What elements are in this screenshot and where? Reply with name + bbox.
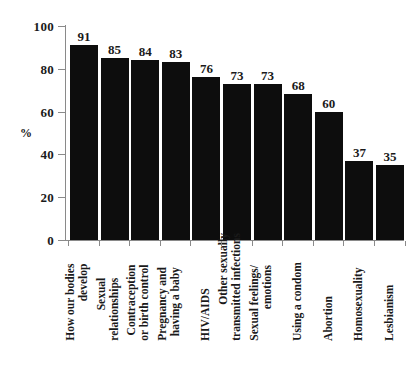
bar (315, 112, 343, 240)
x-tick-mark (68, 241, 69, 246)
bar (223, 84, 251, 240)
bar (254, 84, 282, 240)
bar-value-label: 85 (98, 43, 132, 56)
y-tick-mark (58, 69, 66, 70)
bar-value-label: 37 (342, 146, 376, 159)
y-tick-label: 20 (14, 191, 54, 204)
x-axis-label: How our bodiesdevelop (64, 264, 90, 341)
x-axis-labels: How our bodiesdevelopSexualrelationships… (0, 246, 409, 381)
bar-value-label: 84 (128, 45, 162, 58)
y-tick-mark (58, 112, 66, 113)
bar-value-label: 83 (159, 47, 193, 60)
x-tick-mark (99, 241, 100, 246)
y-tick-label: 40 (14, 148, 54, 161)
bar (376, 165, 404, 240)
x-axis-label: Using a condom (291, 262, 304, 341)
x-tick-mark (129, 241, 130, 246)
bar (131, 60, 159, 240)
bar-value-label: 73 (220, 69, 254, 82)
bar-value-label: 68 (281, 79, 315, 92)
x-axis-label: Contraceptionor birth control (125, 265, 151, 341)
plot-area (66, 26, 404, 240)
y-tick-label: 80 (14, 63, 54, 76)
x-axis-label: Homosexuality (353, 268, 366, 341)
x-axis-label: Sexual feelings/emotions (248, 265, 274, 341)
bar-chart: % 020406080100 How our bodiesdevelopSexu… (0, 0, 409, 381)
bar-value-label: 35 (373, 150, 407, 163)
x-axis-label: Sexualrelationships (95, 278, 121, 341)
y-tick-label: 60 (14, 106, 54, 119)
bar-value-label: 73 (251, 69, 285, 82)
x-axis-label: Lesbianism (383, 285, 396, 341)
bar (162, 62, 190, 240)
x-tick-mark (343, 241, 344, 246)
bar (192, 77, 220, 240)
bar-value-label: 60 (312, 97, 346, 110)
y-tick-mark (58, 197, 66, 198)
x-tick-mark (282, 241, 283, 246)
x-axis-label: HIV/AIDS (200, 289, 213, 341)
x-axis-label: Pregnancy andhaving a baby (156, 267, 182, 341)
y-tick-mark (58, 240, 66, 241)
y-tick-mark (58, 26, 66, 27)
y-tick-label: 100 (14, 20, 54, 33)
bar-value-label: 91 (67, 30, 101, 43)
x-tick-mark (374, 241, 375, 246)
x-axis-label: Abortion (322, 296, 335, 341)
x-tick-mark (160, 241, 161, 246)
bar (284, 94, 312, 240)
x-tick-mark (313, 241, 314, 246)
y-axis-title: % (20, 126, 32, 141)
bar (101, 58, 129, 240)
bar (345, 161, 373, 240)
y-tick-mark (58, 154, 66, 155)
x-axis-label: Other sexuallytransmitted infections (217, 233, 243, 341)
x-tick-mark (252, 241, 253, 246)
x-tick-mark (190, 241, 191, 246)
x-tick-mark (221, 241, 222, 246)
bar-value-label: 76 (189, 62, 223, 75)
x-tick-mark (405, 241, 406, 246)
bar (70, 45, 98, 240)
